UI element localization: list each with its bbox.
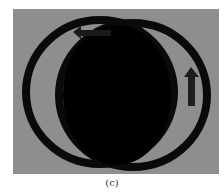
figure-caption: (c) bbox=[0, 177, 224, 188]
center-dark-disk bbox=[63, 25, 171, 165]
up-arrow-icon bbox=[184, 67, 199, 106]
figure-photo-panel bbox=[13, 9, 219, 174]
overlapping-rings-image bbox=[13, 9, 219, 174]
